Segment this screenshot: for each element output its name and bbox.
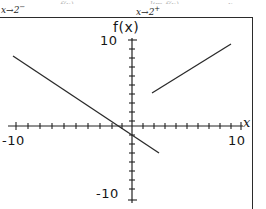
- limit-arrow-left: →: [6, 5, 14, 15]
- x-axis-name-label: x: [243, 115, 251, 130]
- limit-expression-right-sided: x→2+: [136, 5, 160, 17]
- x-axis-min-label: -10: [2, 133, 25, 148]
- y-axis-max-label: 10: [100, 33, 118, 48]
- x-axis-max-label: 10: [228, 133, 246, 148]
- limit-side-sign-right: +: [154, 5, 160, 13]
- function-curve-left-branch: [13, 56, 159, 153]
- clipped-math-fragment-center: lim f(x): [150, 0, 179, 4]
- clipped-math-fragment-left: f(x): [60, 0, 74, 4]
- clipped-math-fragment-right: x: [228, 0, 233, 4]
- coordinate-plot-svg: [0, 18, 253, 209]
- limit-expression-left-sided: x→2−: [1, 3, 25, 15]
- limit-notation-strip: f(x) lim f(x) x x→2− x→2+: [0, 0, 266, 18]
- limit-side-sign-left: −: [19, 3, 25, 11]
- y-axis-min-label: -10: [96, 186, 119, 201]
- graph-plot-frame: f(x) 10 -10 -10 10 x: [0, 17, 253, 209]
- limit-arrow-right: →: [141, 7, 149, 17]
- function-curve-right-branch: [152, 44, 231, 93]
